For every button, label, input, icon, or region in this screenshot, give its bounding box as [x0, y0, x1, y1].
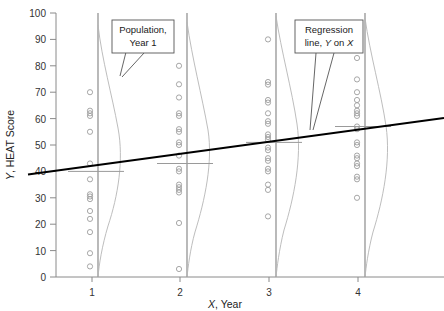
data-points-year-3: [265, 37, 270, 219]
callout-regression-x: X: [346, 37, 354, 48]
data-point: [265, 187, 270, 192]
y-tick-label-30: 30: [35, 193, 47, 204]
callout-regression-mid: on: [331, 37, 347, 48]
callout-leader-regression-right: [313, 53, 334, 130]
data-point: [354, 103, 359, 108]
y-tick-label-90: 90: [35, 34, 47, 45]
data-points-year-1: [87, 90, 92, 269]
data-point: [87, 251, 92, 256]
y-axis-title-rest: , HEAT Score: [4, 110, 16, 173]
y-axis: [50, 13, 56, 277]
data-point: [87, 129, 92, 134]
data-point: [354, 90, 359, 95]
data-point: [265, 37, 270, 42]
svg-text:X, Year: X, Year: [207, 298, 242, 310]
callout-population-year-1: Population, Year 1: [112, 20, 174, 77]
y-tick-label-80: 80: [35, 61, 47, 72]
data-point: [176, 95, 181, 100]
callout-regression-line2: line, Y on X: [305, 37, 354, 48]
distribution-curve-year-1: [98, 25, 120, 277]
y-tick-labels: 100 90 80 70 60 50 40 30 20 10 0: [29, 8, 46, 283]
data-point: [265, 182, 270, 187]
distribution-curve-year-4: [365, 18, 388, 277]
y-tick-label-20: 20: [35, 219, 47, 230]
y-tick-label-10: 10: [35, 246, 47, 257]
data-point: [354, 195, 359, 200]
data-points-year-2: [176, 63, 181, 271]
chart-container: 100 90 80 70 60 50 40 30 20 10 0 1 2 3 4…: [0, 0, 444, 311]
data-point: [87, 264, 92, 269]
x-axis-title-rest: , Year: [215, 298, 242, 310]
data-point: [176, 63, 181, 68]
y-tick-label-60: 60: [35, 114, 47, 125]
x-axis-title: X, Year: [207, 298, 242, 310]
data-point: [87, 230, 92, 235]
scatter-plot-figure: 100 90 80 70 60 50 40 30 20 10 0 1 2 3 4…: [0, 0, 444, 311]
svg-text:Y, HEAT Score: Y, HEAT Score: [4, 110, 16, 180]
callout-regression-pre: line,: [305, 37, 325, 48]
data-point: [354, 77, 359, 82]
data-point: [176, 220, 181, 225]
data-point: [87, 90, 92, 95]
data-point: [87, 216, 92, 221]
mean-bars: [68, 127, 391, 172]
data-point: [354, 55, 359, 60]
x-tick-label-3: 3: [266, 287, 272, 298]
x-tick-label-2: 2: [177, 287, 183, 298]
regression-line: [28, 118, 444, 175]
data-point: [265, 214, 270, 219]
data-point: [176, 266, 181, 271]
data-points-year-4: [354, 55, 359, 200]
x-axis: [56, 277, 444, 282]
data-point: [354, 97, 359, 102]
x-tick-label-1: 1: [89, 287, 95, 298]
callout-population-line2: Year 1: [129, 37, 156, 48]
data-point: [265, 111, 270, 116]
callout-regression-line1: Regression: [305, 24, 353, 35]
y-axis-title: Y, HEAT Score: [4, 110, 16, 180]
data-point: [87, 208, 92, 213]
y-tick-label-70: 70: [35, 87, 47, 98]
y-tick-label-100: 100: [29, 8, 46, 19]
x-tick-labels: 1 2 3 4: [89, 287, 361, 298]
callout-population-line1: Population,: [119, 24, 167, 35]
callout-leader-regression-left: [310, 53, 316, 130]
y-tick-label-0: 0: [40, 272, 46, 283]
callout-regression-line: Regression line, Y on X: [295, 20, 363, 130]
distribution-curve-year-3: [276, 16, 299, 277]
data-point: [87, 177, 92, 182]
y-tick-label-50: 50: [35, 140, 47, 151]
data-point: [176, 82, 181, 87]
callout-leader-population-left: [120, 52, 126, 76]
x-tick-label-4: 4: [355, 287, 361, 298]
